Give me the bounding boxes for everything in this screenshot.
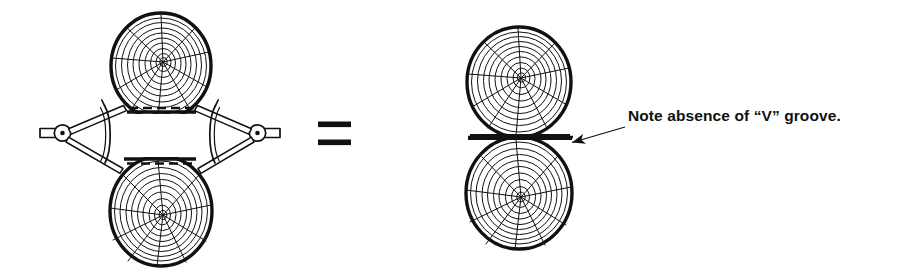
clamp-right-upper-arm (195, 106, 252, 135)
figure-root: Note absence of “V” groove. (0, 0, 917, 275)
leader-line (572, 127, 625, 143)
clamp-right-ratchet-tip (216, 100, 219, 106)
log-joint-diagram (0, 0, 917, 275)
annotation-label: Note absence of “V” groove. (628, 108, 841, 124)
equals-sign (318, 122, 351, 146)
clamp-left-lower-arm (66, 137, 123, 173)
clamp-right-lower-arm (198, 137, 254, 173)
left-top-log (111, 13, 211, 119)
left-bottom-log (110, 156, 212, 266)
clamp-left-ratchet-tip (102, 100, 105, 106)
annotation-leader (572, 127, 625, 143)
clamp-left-handle (40, 125, 71, 141)
clamp-right-handle (249, 125, 280, 141)
clamp-left-upper-arm (69, 106, 127, 135)
right-top-log (467, 27, 571, 137)
right-bottom-log (466, 137, 572, 249)
